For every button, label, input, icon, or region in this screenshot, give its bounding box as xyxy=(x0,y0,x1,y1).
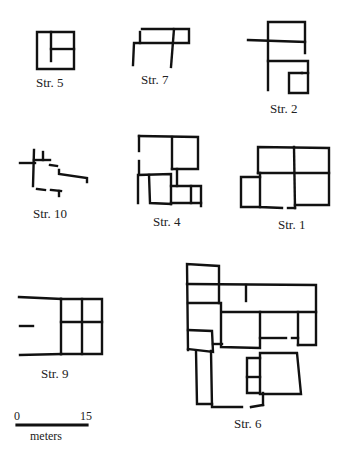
scale-unit-label: meters xyxy=(30,429,62,443)
structure-7-plan: Str. 7 xyxy=(133,29,189,87)
structure-6-plan: Str. 6 xyxy=(187,264,316,431)
structure-10-plan: Str. 10 xyxy=(20,150,87,221)
structure-9-plan: Str. 9 xyxy=(19,297,102,381)
structure-1-plan: Str. 1 xyxy=(241,147,329,232)
structure-4-plan: Str. 4 xyxy=(138,136,201,229)
structure-5-label: Str. 5 xyxy=(36,75,63,90)
structure-2-label: Str. 2 xyxy=(270,101,297,116)
structure-plans-figure: Str. 5 Str. 7 Str. 2 Str. 10 xyxy=(0,0,345,461)
structure-10-label: Str. 10 xyxy=(33,206,67,221)
scale-bar: 0 15 meters xyxy=(14,409,92,443)
structure-1-label: Str. 1 xyxy=(278,217,305,232)
structure-2-plan: Str. 2 xyxy=(248,22,308,116)
structure-7-label: Str. 7 xyxy=(141,72,169,87)
scale-start-label: 0 xyxy=(14,409,20,423)
scale-end-label: 15 xyxy=(80,409,92,423)
structure-5-plan: Str. 5 xyxy=(36,32,74,90)
structure-9-label: Str. 9 xyxy=(41,366,68,381)
structure-4-label: Str. 4 xyxy=(153,214,181,229)
structure-6-label: Str. 6 xyxy=(234,416,262,431)
